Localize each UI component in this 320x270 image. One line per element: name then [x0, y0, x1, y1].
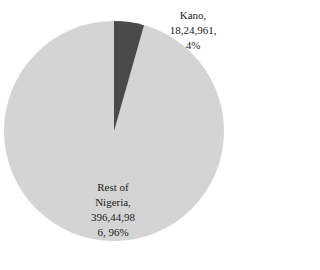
kano-label-percent: 4% — [160, 38, 226, 53]
kano-label-name: Kano, — [160, 8, 226, 23]
rest-label-value: 396,44,98 — [78, 210, 148, 225]
kano-data-label: Kano, 18,24,961, 4% — [160, 8, 226, 53]
rest-label-name-1: Rest of — [78, 180, 148, 195]
rest-of-nigeria-data-label: Rest of Nigeria, 396,44,98 6, 96% — [78, 180, 148, 240]
rest-label-percent: 6, 96% — [78, 225, 148, 240]
kano-label-value: 18,24,961, — [160, 23, 226, 38]
rest-label-name-2: Nigeria, — [78, 195, 148, 210]
